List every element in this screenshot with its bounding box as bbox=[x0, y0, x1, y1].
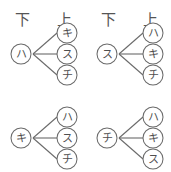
tree-graphic-4: チ ハ キ ス bbox=[86, 92, 171, 172]
node-leaf-3-label: ス bbox=[148, 153, 159, 166]
tree-graphic-3: キ ハ ス チ bbox=[0, 92, 85, 172]
tree-panel-3: キ ハ ス チ bbox=[0, 92, 85, 172]
branch-root-to-leaf-3 bbox=[33, 138, 57, 159]
branch-root-to-leaf-3 bbox=[33, 54, 57, 75]
node-leaf-1-label: ハ bbox=[62, 111, 73, 124]
node-leaf-3-label: チ bbox=[148, 69, 159, 82]
tree-graphic-2: ス ハ キ チ bbox=[86, 8, 171, 90]
tree-panel-4: チ ハ キ ス bbox=[86, 92, 171, 172]
node-leaf-2-label: ス bbox=[62, 48, 73, 61]
tree-diagram-figure: 下 上 ハ キ ス チ 下 上 ス ハ bbox=[0, 0, 171, 172]
node-leaf-2-label: キ bbox=[148, 132, 159, 145]
node-root-label: チ bbox=[102, 132, 113, 145]
node-leaf-3-label: チ bbox=[62, 153, 73, 166]
tree-graphic-1: ハ キ ス チ bbox=[0, 8, 85, 90]
node-leaf-1-label: キ bbox=[62, 27, 73, 40]
branch-root-to-leaf-1 bbox=[119, 33, 143, 54]
node-root-label: ハ bbox=[16, 48, 27, 61]
branch-root-to-leaf-1 bbox=[33, 117, 57, 138]
branch-root-to-leaf-3 bbox=[119, 54, 143, 75]
node-leaf-1-label: ハ bbox=[148, 111, 159, 124]
node-leaf-2-label: ス bbox=[62, 132, 73, 145]
branch-root-to-leaf-1 bbox=[119, 117, 143, 138]
tree-panel-1: 下 上 ハ キ ス チ bbox=[0, 8, 85, 90]
node-leaf-3-label: チ bbox=[62, 69, 73, 82]
branch-root-to-leaf-3 bbox=[119, 138, 143, 159]
node-leaf-1-label: ハ bbox=[148, 27, 159, 40]
node-leaf-2-label: キ bbox=[148, 48, 159, 61]
node-root-label: ス bbox=[102, 48, 113, 61]
tree-panel-2: 下 上 ス ハ キ チ bbox=[86, 8, 171, 90]
node-root-label: キ bbox=[16, 132, 27, 145]
branch-root-to-leaf-1 bbox=[33, 33, 57, 54]
